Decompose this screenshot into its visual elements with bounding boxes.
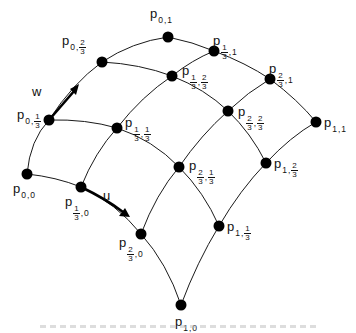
label-p00: p0,0	[13, 182, 35, 200]
control-point-p13_0	[76, 182, 87, 193]
control-point-p0_23	[97, 57, 108, 68]
label-p10: p1,0	[175, 315, 197, 333]
label-p23_13: p23,13	[189, 159, 215, 186]
label-p0_13: p0,13	[17, 108, 41, 130]
control-point-p23_13	[174, 162, 185, 173]
label-p23_0: p23,0	[119, 236, 143, 263]
label-p13_1: p13,1	[213, 34, 237, 61]
label-p23_23: p23,23	[238, 105, 264, 132]
control-point-p23_23	[223, 106, 234, 117]
u-label: u	[103, 188, 110, 203]
cropped-caption	[40, 325, 320, 328]
control-point-p01	[163, 32, 174, 43]
control-point-p11	[311, 117, 322, 128]
control-point-p10	[176, 300, 187, 311]
label-p1_13: p1,13	[227, 220, 251, 242]
curve-u23	[141, 79, 270, 234]
label-p13_13: p13,13	[125, 116, 151, 143]
control-point-p13_23	[167, 71, 178, 82]
label-p13_0: p13,0	[65, 195, 89, 222]
w-direction-arrow	[49, 90, 75, 120]
label-p0_23: p0,23	[62, 34, 86, 56]
label-p1_23: p1,23	[274, 157, 298, 179]
control-point-p0_13	[44, 115, 55, 126]
label-p13_23: p13,23	[182, 64, 208, 91]
curve-u1	[181, 122, 316, 305]
control-point-p1_23	[261, 158, 272, 169]
w-label: w	[32, 84, 41, 99]
label-p11: p1,1	[324, 116, 346, 134]
control-point-p13_13	[112, 123, 123, 134]
label-p01: p0,1	[150, 7, 172, 25]
label-p23_1: p23,1	[269, 62, 293, 89]
control-point-p1_13	[214, 221, 225, 232]
control-point-p00	[22, 169, 33, 180]
